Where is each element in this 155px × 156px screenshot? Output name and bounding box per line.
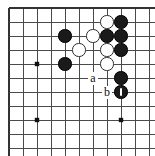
point-label-a: a <box>86 72 100 84</box>
board-overlay: ab <box>0 0 155 156</box>
point-label-b: b <box>100 86 114 98</box>
black-stone <box>114 43 127 56</box>
black-stone <box>114 29 127 42</box>
white-stone <box>100 57 113 70</box>
white-stone <box>86 29 99 42</box>
black-stone <box>58 57 71 70</box>
black-stone <box>100 29 113 42</box>
black-stone <box>114 15 127 28</box>
black-stone <box>114 71 127 84</box>
white-stone <box>100 15 113 28</box>
marked-stone-indicator <box>120 88 122 96</box>
go-diagram: ab <box>0 0 155 156</box>
white-stone <box>100 43 113 56</box>
white-stone <box>72 43 85 56</box>
black-stone <box>58 29 71 42</box>
